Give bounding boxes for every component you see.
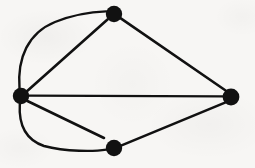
node-bottom [106,140,122,156]
graph-canvas [0,0,255,168]
node-top [106,6,122,22]
node-right [223,89,240,106]
edge-left-top-curved [19,11,106,88]
graph-figure [0,0,255,168]
edge-left-bottom-curved [20,104,107,151]
node-layer [13,6,240,156]
edge-layer [19,11,226,150]
edge-left-dangling-halfedge [27,101,104,138]
node-left [13,88,29,104]
edge-bottom-right-straight [122,103,225,146]
edge-top-right-straight [121,18,226,90]
edge-left-right-horizontal [29,96,223,97]
